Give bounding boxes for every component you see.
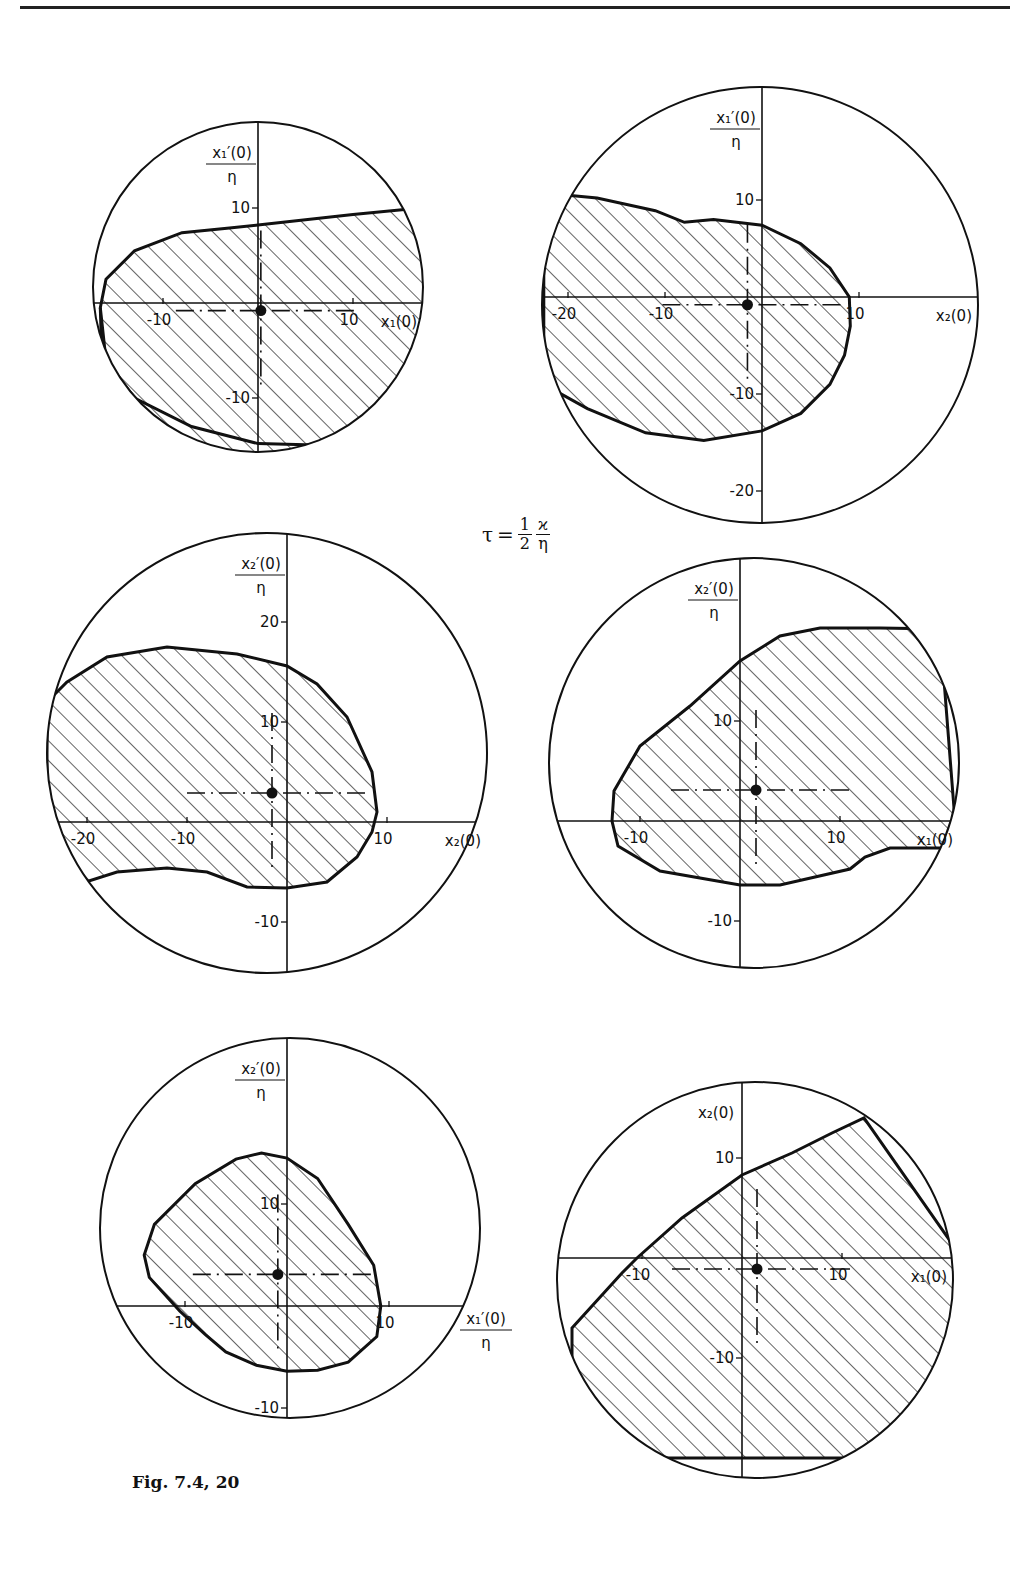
- operating-point-dot: [272, 1269, 283, 1280]
- panel-6: -101010-10x₁(0)x₂(0): [557, 1082, 962, 1478]
- x-tick-label: -10: [147, 311, 172, 329]
- x-axis-label: x₁(0): [911, 1268, 947, 1286]
- panel-1: -101010-10x₁(0)x₁′(0)η: [93, 122, 543, 493]
- stability-region: [47, 647, 377, 888]
- y-axis-label: x₁′(0): [212, 144, 252, 162]
- y-tick-label: -20: [730, 482, 755, 500]
- x-tick-label: -10: [171, 830, 196, 848]
- svg-text:η: η: [227, 168, 237, 186]
- y-tick-label: 10: [260, 713, 279, 731]
- x-axis-label: x₁(0): [917, 831, 953, 849]
- y-tick-label: -10: [730, 385, 755, 403]
- panel-3: -20-10102010-10x₂(0)x₂′(0)η: [47, 533, 487, 973]
- y-axis-label: x₂′(0): [241, 1060, 281, 1078]
- stability-region: [572, 1118, 962, 1458]
- operating-point-dot: [742, 299, 753, 310]
- y-tick-label: 10: [231, 199, 250, 217]
- y-axis-label: x₁′(0): [716, 109, 756, 127]
- figure-caption: Fig. 7.4, 20: [132, 1472, 239, 1492]
- x-axis-label: x₂(0): [445, 832, 481, 850]
- half-fraction: 1 2: [518, 516, 532, 553]
- x-tick-label: 10: [339, 311, 358, 329]
- y-tick-label: 10: [713, 712, 732, 730]
- stability-region-diagram: -101010-10x₁(0)x₁′(0)η-20-101010-10-20x₂…: [0, 0, 1012, 1574]
- svg-text:η: η: [731, 133, 741, 151]
- operating-point-dot: [255, 305, 266, 316]
- y-tick-label: 10: [715, 1149, 734, 1167]
- x-tick-label: 10: [845, 305, 864, 323]
- y-tick-label: -10: [255, 1399, 280, 1417]
- y-tick-label: 10: [260, 1195, 279, 1213]
- operating-point-dot: [752, 1264, 763, 1275]
- x-tick-label: 10: [373, 830, 392, 848]
- kappa-over-eta-fraction: ϰ η: [536, 516, 550, 553]
- svg-text:η: η: [481, 1334, 491, 1352]
- operating-point-dot: [267, 788, 278, 799]
- panel-4: -101010-10x₁(0)x₂′(0)η: [549, 558, 959, 968]
- x-axis-label: x₁′(0): [466, 1310, 506, 1328]
- x-tick-label: -10: [649, 305, 674, 323]
- x-axis-label: x₂(0): [936, 307, 972, 325]
- y-tick-label: -10: [708, 912, 733, 930]
- tau-symbol: τ: [482, 523, 493, 547]
- y-axis-label: x₂(0): [698, 1104, 734, 1122]
- equals-sign: =: [497, 523, 514, 547]
- svg-text:η: η: [256, 579, 266, 597]
- x-tick-label: -10: [626, 1266, 651, 1284]
- y-axis-label: x₂′(0): [241, 555, 281, 573]
- stability-region: [612, 628, 955, 885]
- svg-text:η: η: [256, 1084, 266, 1102]
- y-tick-label: -10: [226, 389, 251, 407]
- x-axis-label: x₁(0): [381, 313, 417, 331]
- stability-region: [100, 203, 543, 493]
- parameter-label: τ = 1 2 ϰ η: [482, 516, 550, 553]
- x-tick-label: -20: [552, 305, 577, 323]
- y-tick-label: 10: [735, 191, 754, 209]
- panel-2: -20-101010-10-20x₂(0)x₁′(0)η: [542, 87, 978, 523]
- stability-region: [144, 1153, 381, 1371]
- y-tick-label: -10: [710, 1349, 735, 1367]
- y-tick-label: 20: [260, 613, 279, 631]
- x-tick-label: -20: [71, 830, 96, 848]
- stability-region: [544, 195, 851, 440]
- y-tick-label: -10: [255, 913, 280, 931]
- panel-5: -101010-10x₁′(0)ηx₂′(0)η: [100, 1038, 512, 1418]
- x-tick-label: -10: [624, 829, 649, 847]
- x-tick-label: 10: [375, 1314, 394, 1332]
- operating-point-dot: [751, 785, 762, 796]
- y-axis-label: x₂′(0): [694, 580, 734, 598]
- x-tick-label: -10: [169, 1314, 194, 1332]
- x-tick-label: 10: [826, 829, 845, 847]
- svg-text:η: η: [709, 604, 719, 622]
